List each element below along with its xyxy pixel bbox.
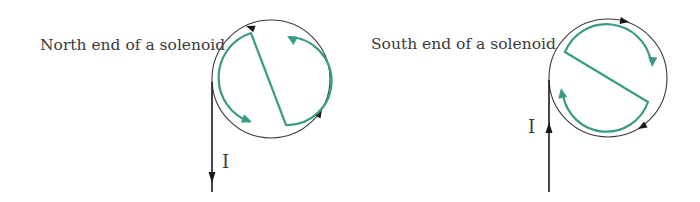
- south-current-label: I: [528, 116, 535, 137]
- north-letter-arrow-bottom-icon: [241, 114, 253, 126]
- diagram-canvas: North end of a solenoid I South end of a…: [0, 0, 700, 202]
- solenoid-ends-diagram: North end of a solenoid I South end of a…: [0, 0, 700, 202]
- south-end-diagram: South end of a solenoid I: [371, 17, 667, 192]
- south-end-caption: South end of a solenoid: [371, 35, 556, 53]
- south-current-arrow-up-icon: [546, 122, 553, 133]
- south-letter-s: [563, 24, 651, 131]
- north-current-arrow-down-icon: [209, 172, 216, 183]
- south-letter-arrow-bottom-icon: [557, 87, 568, 98]
- north-end-diagram: North end of a solenoid I: [40, 20, 332, 192]
- north-current-loop: [212, 20, 330, 138]
- north-letter-n: [219, 33, 332, 125]
- north-end-caption: North end of a solenoid: [40, 36, 225, 54]
- north-current-label: I: [222, 151, 229, 172]
- north-letter-arrow-top-icon: [285, 32, 298, 45]
- south-letter-arrow-top-icon: [648, 57, 658, 68]
- south-loop-arrow-top-icon: [620, 17, 630, 25]
